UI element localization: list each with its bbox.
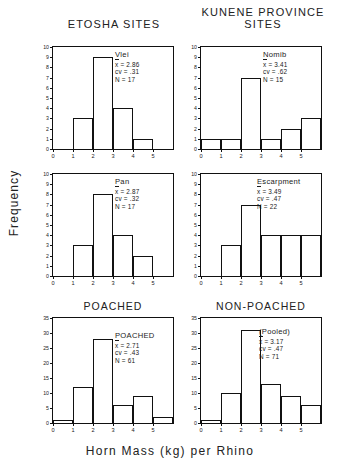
y-axis-tick-label: 20 bbox=[43, 360, 49, 366]
panel-title: Pan bbox=[115, 178, 140, 186]
x-axis-tick-label: 3 bbox=[111, 153, 114, 159]
plot-area: 012345678910012345Escarpmentx = 3.49cv =… bbox=[200, 173, 322, 277]
y-axis-tick-label: 5 bbox=[194, 95, 197, 101]
y-axis-tick-label: 10 bbox=[191, 390, 197, 396]
y-axis-tick bbox=[198, 139, 201, 140]
stats-annotation: Escarpmentx = 3.49cv = .47N = 22 bbox=[257, 178, 301, 210]
stat-mean: x = 2.71 bbox=[115, 342, 155, 350]
y-axis-tick-label: 1 bbox=[46, 263, 49, 269]
bar bbox=[133, 256, 153, 276]
x-axis-tick bbox=[93, 276, 94, 279]
y-axis-tick-label: 35 bbox=[191, 315, 197, 321]
stat-mean: x = 3.41 bbox=[263, 61, 288, 69]
x-axis-tick bbox=[241, 423, 242, 426]
bar-slot bbox=[201, 174, 221, 276]
y-axis-tick-label: 8 bbox=[46, 191, 49, 197]
y-axis-tick-label: 5 bbox=[46, 222, 49, 228]
y-axis-tick-label: 10 bbox=[191, 171, 197, 177]
y-axis-tick bbox=[50, 98, 53, 99]
y-axis-tick bbox=[198, 88, 201, 89]
y-axis-tick-label: 4 bbox=[46, 232, 49, 238]
y-axis-tick-label: 0 bbox=[46, 273, 49, 279]
plot-area: 012345678910012345Vleix = 2.86cv = .31N … bbox=[52, 46, 174, 150]
y-axis-tick bbox=[50, 78, 53, 79]
y-axis-tick bbox=[50, 318, 53, 319]
mean-symbol: x bbox=[115, 61, 118, 69]
panel-heading-non-poached: NON-POACHED bbox=[200, 300, 322, 312]
y-axis-tick bbox=[198, 225, 201, 226]
bar bbox=[113, 108, 133, 149]
bar-slot bbox=[93, 47, 113, 149]
bar-series bbox=[201, 47, 321, 149]
stat-n: N = 15 bbox=[263, 76, 288, 84]
y-axis-tick bbox=[198, 78, 201, 79]
x-axis-tick-label: 5 bbox=[151, 280, 154, 286]
x-axis-tick-label: 5 bbox=[151, 153, 154, 159]
bar bbox=[113, 405, 133, 423]
group-title-kunene: KUNENE PROVINCE SITES bbox=[196, 6, 330, 30]
x-axis-tick bbox=[133, 149, 134, 152]
y-axis-tick bbox=[198, 235, 201, 236]
stats-annotation: (Pooled)x = 3.17cv = .47N = 71 bbox=[259, 328, 290, 360]
stat-mean: x = 2.86 bbox=[115, 61, 140, 69]
plot-area: 05101520253035012345POACHEDx = 2.71cv = … bbox=[52, 317, 174, 424]
x-axis-tick bbox=[73, 423, 74, 426]
y-axis-tick bbox=[198, 363, 201, 364]
bar-slot bbox=[221, 47, 241, 149]
x-axis-tick bbox=[241, 149, 242, 152]
stat-n: N = 17 bbox=[115, 203, 140, 211]
y-axis-tick-label: 25 bbox=[43, 345, 49, 351]
bar bbox=[73, 245, 93, 276]
y-axis-tick-label: 10 bbox=[43, 44, 49, 50]
bar bbox=[301, 405, 321, 423]
y-axis-tick-label: 6 bbox=[46, 85, 49, 91]
x-axis-tick bbox=[73, 149, 74, 152]
y-axis-tick-label: 6 bbox=[194, 85, 197, 91]
histogram-panel-pooled: 05101520253035012345(Pooled)x = 3.17cv =… bbox=[200, 317, 322, 424]
y-axis-tick bbox=[50, 57, 53, 58]
y-axis-tick bbox=[50, 378, 53, 379]
histogram-panel-escarpment: 012345678910012345Escarpmentx = 3.49cv =… bbox=[200, 173, 322, 277]
x-axis-tick-label: 1 bbox=[71, 280, 74, 286]
y-axis-tick bbox=[50, 184, 53, 185]
bar-series bbox=[53, 47, 173, 149]
y-axis-tick bbox=[50, 393, 53, 394]
y-axis-tick-label: 2 bbox=[194, 126, 197, 132]
x-axis-tick-label: 1 bbox=[71, 427, 74, 433]
panel-title: POACHED bbox=[115, 332, 155, 340]
x-axis-tick bbox=[221, 423, 222, 426]
y-axis-tick-label: 4 bbox=[194, 232, 197, 238]
stat-cv: cv = .32 bbox=[115, 195, 140, 203]
stat-cv: cv = .47 bbox=[259, 345, 290, 353]
x-axis-tick-label: 0 bbox=[51, 153, 54, 159]
bar bbox=[53, 420, 73, 423]
panel-title: Escarpment bbox=[257, 178, 301, 186]
bar bbox=[301, 118, 321, 149]
bar-slot bbox=[221, 174, 241, 276]
bar bbox=[221, 393, 241, 423]
x-axis-tick bbox=[301, 276, 302, 279]
x-axis-tick-label: 4 bbox=[131, 153, 134, 159]
x-axis-tick bbox=[201, 423, 202, 426]
y-axis-tick-label: 0 bbox=[46, 146, 49, 152]
bar-slot bbox=[73, 47, 93, 149]
x-axis-tick-label: 5 bbox=[299, 280, 302, 286]
bar-slot bbox=[53, 47, 73, 149]
y-axis-tick bbox=[198, 266, 201, 267]
mean-symbol: x bbox=[115, 188, 118, 196]
y-axis-tick-label: 1 bbox=[194, 136, 197, 142]
x-axis-tick bbox=[221, 276, 222, 279]
mean-symbol: x bbox=[259, 338, 262, 346]
x-axis-tick-label: 5 bbox=[299, 427, 302, 433]
panel-title: Vlei bbox=[115, 51, 140, 59]
stat-n: N = 22 bbox=[257, 203, 301, 211]
y-axis-tick bbox=[198, 393, 201, 394]
bar bbox=[93, 194, 113, 276]
bar bbox=[241, 78, 261, 149]
mean-symbol: x bbox=[257, 188, 260, 196]
x-axis-tick bbox=[93, 423, 94, 426]
stat-mean: x = 2.87 bbox=[115, 188, 140, 196]
x-axis-tick bbox=[281, 276, 282, 279]
bar-slot bbox=[153, 47, 173, 149]
y-axis-tick bbox=[198, 256, 201, 257]
